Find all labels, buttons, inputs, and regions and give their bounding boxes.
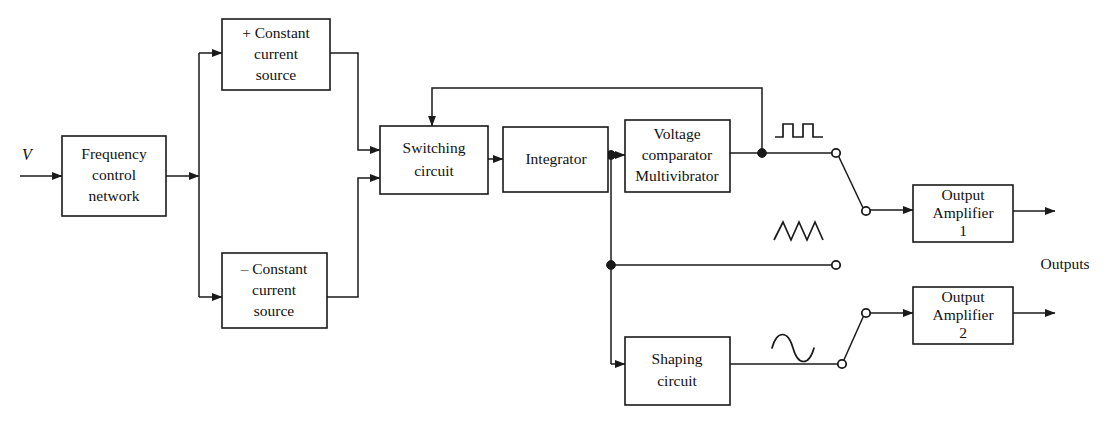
junction-dot-comparator-output [758, 149, 767, 158]
block-label-comparator-line1: Voltage [653, 125, 700, 142]
sine-wave-icon [772, 335, 814, 362]
block-label-output-amplifier-1-line1: Output [941, 186, 985, 203]
block-label-negative-source-line2: current [252, 281, 297, 298]
wire-switch-blade-lower [843, 315, 864, 362]
switch-pole-amplifier-1[interactable] [862, 207, 870, 215]
block-label-positive-source-line1: + Constant [242, 24, 310, 41]
outputs-group-label: Outputs [1040, 255, 1089, 272]
switch-terminal-sine[interactable] [838, 360, 846, 368]
junction-dot-triangle-branch [607, 261, 616, 270]
block-label-shaping-circuit-line2: circuit [657, 372, 697, 389]
block-label-comparator-line2: comparator [642, 146, 713, 163]
block-switching-circuit[interactable] [380, 126, 488, 194]
block-label-output-amplifier-2-line2: Amplifier [932, 306, 994, 323]
block-label-output-amplifier-2-line3: 2 [959, 324, 967, 341]
triangle-wave-icon [774, 222, 823, 240]
switch-terminal-triangle-upper[interactable] [832, 261, 840, 269]
block-label-positive-source-line3: source [256, 66, 297, 83]
block-label-negative-source-line1: – Constant [240, 260, 308, 277]
block-label-frequency-control-line1: Frequency [81, 145, 147, 162]
function-generator-block-diagram: V Frequency control network + Constant c… [0, 0, 1110, 424]
block-label-integrator: Integrator [525, 150, 587, 167]
block-label-output-amplifier-1-line2: Amplifier [932, 204, 994, 221]
block-label-negative-source-line3: source [254, 302, 295, 319]
wire-negative-source-to-switching [327, 178, 380, 297]
switch-pole-amplifier-2[interactable] [862, 309, 870, 317]
wire-positive-source-to-switching [330, 53, 380, 150]
block-label-output-amplifier-1-line3: 1 [959, 222, 967, 239]
block-label-positive-source-line2: current [254, 45, 299, 62]
switch-terminal-square[interactable] [832, 149, 840, 157]
block-label-frequency-control-line3: network [89, 187, 140, 204]
block-label-switching-circuit-line2: circuit [414, 162, 454, 179]
block-label-output-amplifier-2-line1: Output [941, 288, 985, 305]
square-wave-icon [775, 124, 823, 137]
wire-switch-blade-upper [838, 155, 864, 210]
block-label-frequency-control-line2: control [92, 166, 136, 183]
input-voltage-label: V [22, 146, 34, 163]
block-label-switching-circuit-line1: Switching [403, 139, 466, 156]
diagram-canvas: V Frequency control network + Constant c… [0, 0, 1110, 424]
block-label-comparator-line3: Multivibrator [635, 167, 719, 184]
block-label-shaping-circuit-line1: Shaping [652, 350, 703, 367]
